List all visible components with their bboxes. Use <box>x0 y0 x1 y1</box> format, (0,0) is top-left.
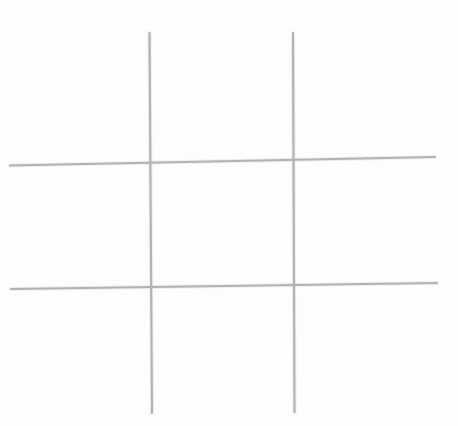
horizontal-line-top <box>10 157 435 166</box>
horizontal-line-bottom <box>11 283 437 289</box>
tic-tac-toe-canvas <box>0 0 458 426</box>
tic-tac-toe-grid <box>0 0 458 426</box>
grid-line-layer <box>10 33 437 413</box>
grid-halo-layer <box>10 33 437 413</box>
vertical-line-right <box>293 33 295 412</box>
